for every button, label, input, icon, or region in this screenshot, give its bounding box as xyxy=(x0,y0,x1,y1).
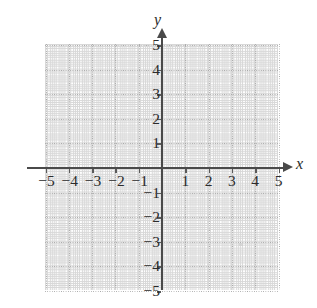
x-axis-line xyxy=(27,167,285,169)
x-tick-label: 4 xyxy=(251,173,259,189)
y-tick-label: 4 xyxy=(152,62,160,78)
x-tick-label: 5 xyxy=(275,173,283,189)
y-axis-line xyxy=(161,36,163,290)
x-tick-label: −4 xyxy=(62,173,79,189)
y-tick-label: 3 xyxy=(152,86,160,102)
coordinate-plane-figure: −5−4−3−2−11234554321−1−2−3−4−5 x y xyxy=(0,0,317,308)
x-tick-label: 1 xyxy=(181,173,189,189)
x-axis-arrowhead-icon xyxy=(283,162,293,172)
x-tick-label: 2 xyxy=(205,173,213,189)
y-axis-label: y xyxy=(154,12,161,28)
scan-artifact xyxy=(239,243,243,246)
x-tick-label: −2 xyxy=(108,173,125,189)
gridline-horizontal xyxy=(45,291,278,292)
x-axis-label: x xyxy=(296,156,303,172)
y-tick-label: −3 xyxy=(144,234,161,250)
y-tick-label: −2 xyxy=(144,209,161,225)
y-tick-label: 1 xyxy=(152,136,160,152)
y-tick-label: −4 xyxy=(144,259,161,275)
x-tick-label: −3 xyxy=(85,173,102,189)
x-tick-label: −5 xyxy=(38,173,55,189)
x-tick-label: 3 xyxy=(228,173,236,189)
y-tick-label: −5 xyxy=(144,283,161,299)
y-tick-label: −1 xyxy=(144,185,161,201)
y-tick-label: 2 xyxy=(152,111,160,127)
y-tick-label: 5 xyxy=(152,37,160,53)
